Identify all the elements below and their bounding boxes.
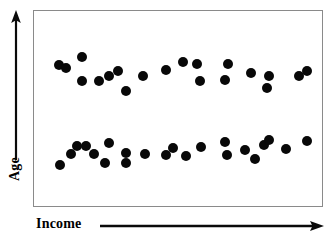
plot-area (34, 11, 322, 206)
y-axis-arrow (7, 8, 25, 160)
x-axis-label: Income (36, 216, 82, 232)
data-point (240, 145, 250, 155)
data-point (168, 143, 178, 153)
data-point (222, 150, 232, 160)
plot-frame (33, 10, 323, 207)
data-point (55, 160, 65, 170)
data-point (223, 59, 233, 69)
data-point (89, 149, 99, 159)
data-point (104, 71, 114, 81)
data-point (81, 141, 91, 151)
y-axis-label: Age (4, 141, 26, 197)
data-point (140, 149, 150, 159)
x-axis-arrow (98, 216, 326, 236)
data-point (161, 65, 171, 75)
data-point (250, 154, 260, 164)
data-point (281, 144, 291, 154)
data-point (121, 148, 131, 158)
data-point (100, 158, 110, 168)
scatter-plot-figure: Age Income (0, 0, 333, 243)
data-point (264, 71, 274, 81)
data-point (246, 68, 256, 78)
data-point (262, 83, 272, 93)
data-point (121, 86, 131, 96)
data-point (220, 137, 230, 147)
data-point (192, 59, 202, 69)
data-point (264, 135, 274, 145)
data-point (77, 52, 87, 62)
data-point (196, 142, 206, 152)
data-point (195, 76, 205, 86)
data-point (220, 75, 230, 85)
data-point (302, 136, 312, 146)
data-point (113, 66, 123, 76)
data-point (138, 71, 148, 81)
data-point (94, 76, 104, 86)
data-point (61, 63, 71, 73)
data-point (104, 138, 114, 148)
data-point (77, 76, 87, 86)
data-point (178, 57, 188, 67)
data-point (121, 158, 131, 168)
data-point (181, 151, 191, 161)
data-point (302, 66, 312, 76)
